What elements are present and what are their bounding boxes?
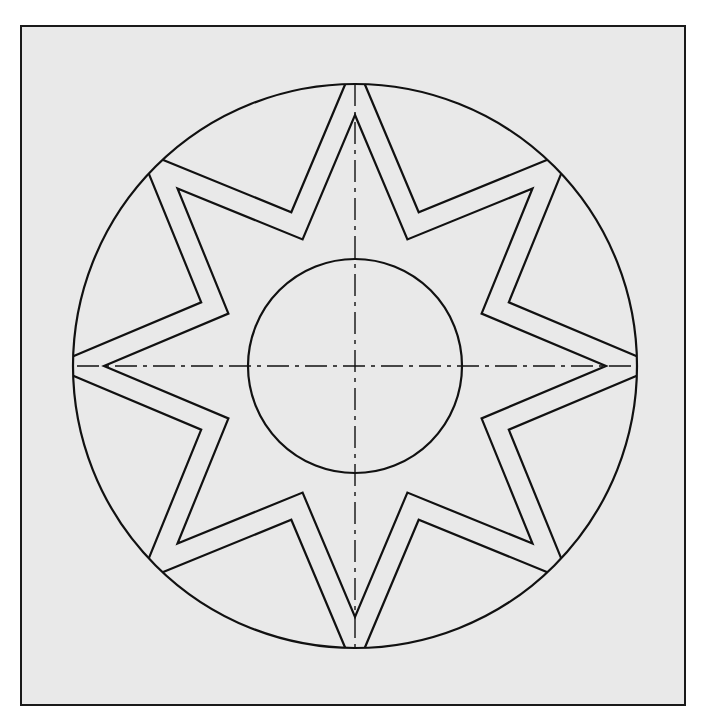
geometric-star-drawing (0, 0, 705, 717)
